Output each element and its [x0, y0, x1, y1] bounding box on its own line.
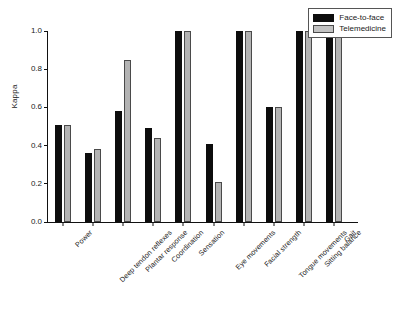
y-tick-label: 0.4	[31, 141, 42, 150]
y-tick-mark	[44, 69, 48, 70]
bar-group	[145, 31, 161, 222]
y-axis-line	[47, 31, 48, 223]
y-axis-title: Kappa	[10, 67, 19, 127]
y-tick-label: 0.0	[31, 217, 42, 226]
legend-label-telemedicine: Telemedicine	[339, 24, 386, 33]
bar	[296, 31, 303, 222]
y-tick-mark	[44, 183, 48, 184]
bar	[236, 31, 243, 222]
x-tick-mark	[183, 222, 184, 226]
y-tick-mark	[44, 145, 48, 146]
bar	[115, 111, 122, 222]
x-tick-mark	[123, 222, 124, 226]
y-tick-label: 0.8	[31, 64, 42, 73]
y-tick-mark	[44, 222, 48, 223]
x-tick-mark	[153, 222, 154, 226]
chart-legend: Face-to-face Telemedicine	[308, 8, 392, 38]
bar	[145, 128, 152, 222]
y-tick-mark	[44, 107, 48, 108]
bar-group	[266, 31, 282, 222]
bar	[154, 138, 161, 222]
bar	[215, 182, 222, 222]
bar	[266, 107, 273, 222]
bar	[55, 125, 62, 222]
x-axis-line	[47, 222, 358, 223]
bar-group	[236, 31, 252, 222]
y-tick-label: 0.6	[31, 102, 42, 111]
bar	[85, 153, 92, 222]
bar-group	[115, 31, 131, 222]
bar	[94, 149, 101, 222]
bar	[184, 31, 191, 222]
bar	[206, 144, 213, 222]
bar	[245, 31, 252, 222]
legend-item-face-to-face: Face-to-face	[313, 12, 386, 23]
chart-figure: Kappa 0.00.20.40.60.81.0 PowerDeep tendo…	[0, 0, 397, 322]
y-tick-label: 0.2	[31, 179, 42, 188]
x-tick-mark	[243, 222, 244, 226]
x-tick-mark	[213, 222, 214, 226]
bar-group	[55, 31, 71, 222]
legend-swatch-face-to-face	[313, 14, 334, 22]
x-tick-mark	[303, 222, 304, 226]
bar	[175, 31, 182, 222]
bar-group	[296, 31, 312, 222]
bar	[64, 125, 71, 222]
bar	[124, 60, 131, 222]
x-tick-mark	[93, 222, 94, 226]
x-tick-mark	[273, 222, 274, 226]
bar	[326, 31, 333, 222]
legend-item-telemedicine: Telemedicine	[313, 23, 386, 34]
bar-group	[175, 31, 191, 222]
bar	[335, 31, 342, 222]
x-tick-mark	[333, 222, 334, 226]
bar	[305, 31, 312, 222]
bar	[275, 107, 282, 222]
y-tick-mark	[44, 31, 48, 32]
x-axis-label: Power	[73, 228, 94, 249]
x-tick-mark	[63, 222, 64, 226]
bar-group	[85, 31, 101, 222]
legend-swatch-telemedicine	[313, 25, 334, 33]
legend-label-face-to-face: Face-to-face	[339, 13, 384, 22]
y-tick-label: 1.0	[31, 26, 42, 35]
bar-group	[206, 31, 222, 222]
plot-area: 0.00.20.40.60.81.0 PowerDeep tendon refl…	[48, 31, 349, 222]
bar-group	[326, 31, 342, 222]
